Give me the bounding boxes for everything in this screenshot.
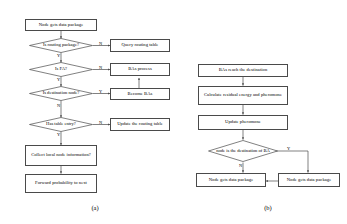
node-a-is-routing-package[interactable]: Is routing package? xyxy=(29,38,93,53)
node-b-is-destination-of-ba[interactable]: node is the destination of BA xyxy=(208,140,278,162)
node-label: node is the destination of BA xyxy=(208,149,278,154)
node-label: Is FA? xyxy=(29,67,93,72)
node-a-is-fa[interactable]: Is FA? xyxy=(29,62,93,77)
node-b-calculate-residual-energy[interactable]: Calculate residual energy and pheromone xyxy=(198,86,288,105)
edge-label-fa-no: N xyxy=(99,66,102,70)
node-label: Is routing package? xyxy=(29,43,93,48)
edge-label-dest-no: N xyxy=(57,104,60,108)
node-a-update-routing-table[interactable]: Update the routing table xyxy=(110,118,170,131)
node-a-bas-process[interactable]: BAs process xyxy=(110,63,170,76)
node-label: Is destination node? xyxy=(29,91,93,96)
node-a-collect-local-info[interactable]: Collect local node information? xyxy=(25,145,97,166)
edge-label-dest-yes: Y xyxy=(99,90,102,94)
node-b-update-pheromone[interactable]: Update pheromone xyxy=(198,115,288,130)
edge-label-routing-no: N xyxy=(99,42,102,46)
node-b-bas-reach-destination[interactable]: BAs reach the destination xyxy=(198,64,288,77)
node-a-is-destination-node[interactable]: Is destination node? xyxy=(29,86,93,101)
edge-label-fa-yes: Y xyxy=(57,78,60,82)
panel-caption-a: (a) xyxy=(80,204,110,211)
edge-label-isdest-no: N xyxy=(239,164,242,168)
node-b-node-gets-data-package-left[interactable]: Node gets data package xyxy=(196,173,266,187)
edge-label-entry-no: N xyxy=(99,121,102,125)
panel-caption-b: (b) xyxy=(253,204,283,211)
node-a-has-table-entry[interactable]: Has table entry? xyxy=(29,117,93,132)
node-a-become-bas[interactable]: Become BAs xyxy=(110,88,170,100)
edge-label-isdest-yes: Y xyxy=(287,147,290,151)
node-b-node-gets-data-package-right[interactable]: Node gets data package xyxy=(278,173,340,187)
edge-label-routing-yes: Y xyxy=(57,54,60,58)
node-label: Has table entry? xyxy=(29,122,93,127)
node-a-query-routing-table[interactable]: Query routing table xyxy=(110,39,170,52)
figure-canvas: Node gets data package Is routing packag… xyxy=(0,0,347,224)
node-a-start[interactable]: Node gets data package xyxy=(25,19,97,31)
edge-label-entry-yes: Y xyxy=(57,133,60,137)
node-a-forward-probability[interactable]: Forward probability to next xyxy=(25,174,97,193)
